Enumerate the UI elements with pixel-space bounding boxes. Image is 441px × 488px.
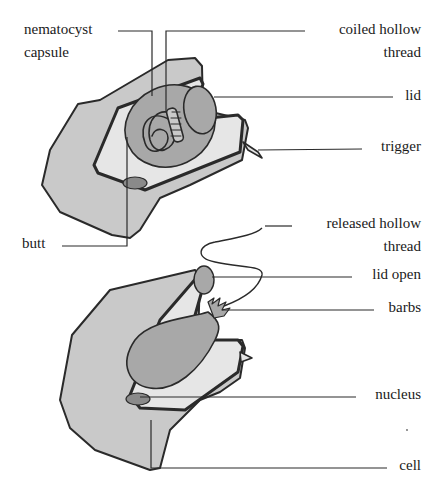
nematocyst-diagram: nematocyst capsule coiled hollow thread … <box>0 0 441 488</box>
stray-dot <box>406 429 408 431</box>
label-text: released hollow <box>326 212 421 235</box>
label-cell: cell <box>399 454 421 477</box>
label-coiled-hollow-thread: coiled hollow thread <box>339 18 421 64</box>
bottom-lid-open <box>194 266 214 294</box>
label-nematocyst-capsule: nematocyst capsule <box>24 18 92 64</box>
label-text: thread <box>339 41 421 64</box>
label-trigger: trigger <box>381 135 421 158</box>
label-text: capsule <box>24 41 92 64</box>
label-text: nucleus <box>375 383 421 406</box>
released-thread <box>201 228 262 306</box>
bottom-trigger <box>240 352 252 362</box>
label-text: lid <box>405 84 421 107</box>
label-text: nematocyst <box>24 18 92 41</box>
label-lid-open: lid open <box>372 263 421 286</box>
label-text: trigger <box>381 135 421 158</box>
leader-trigger <box>258 149 362 150</box>
bottom-cell-figure <box>60 266 252 470</box>
label-text: lid open <box>372 263 421 286</box>
label-text: butt <box>22 232 45 255</box>
leader-cell <box>151 420 387 468</box>
label-text: cell <box>399 454 421 477</box>
label-nucleus: nucleus <box>375 383 421 406</box>
label-text: coiled hollow <box>339 18 421 41</box>
label-text: barbs <box>389 296 422 319</box>
label-butt: butt <box>22 232 45 255</box>
label-text: thread <box>326 235 421 258</box>
label-released-hollow-thread: released hollow thread <box>326 212 421 258</box>
label-barbs: barbs <box>389 296 422 319</box>
bottom-nucleus <box>126 393 150 405</box>
label-lid: lid <box>405 84 421 107</box>
